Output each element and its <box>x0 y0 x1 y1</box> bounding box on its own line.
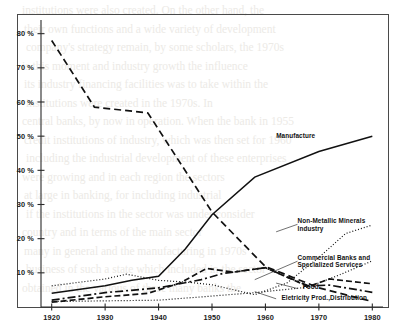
bleed-line: were growing and in each region the sect… <box>22 171 225 184</box>
series-label: Manufacture <box>276 132 315 139</box>
x-axis-ticks: 1920193019401950196019701980 <box>43 304 380 323</box>
y-tick-label: 40 % <box>17 166 35 175</box>
y-tick-label: 30 % <box>17 200 35 209</box>
leader-electricity <box>255 292 276 299</box>
bleed-line: if the institutions in the sector was un… <box>26 208 255 220</box>
x-tick-label: 1950 <box>204 313 221 322</box>
y-tick-label: 50 % <box>17 132 35 141</box>
bleed-line: credit institutions of industry, which w… <box>24 134 292 147</box>
bleed-line: is this moment and industry growth the i… <box>22 60 248 73</box>
y-tick-label: 70 % <box>17 63 35 72</box>
bleed-line: including the industrial development of … <box>26 152 287 165</box>
bleed-line: many in general and the manufacturing in… <box>24 245 247 258</box>
chart-svg: institutions were also created. On the o… <box>0 0 400 324</box>
background-bleed-text: institutions were also created. On the o… <box>22 4 294 295</box>
leader-food <box>276 283 297 288</box>
y-tick-label: 20 % <box>17 234 35 243</box>
x-tick-label: 1930 <box>97 313 114 322</box>
x-tick-label: 1940 <box>150 313 167 322</box>
x-tick-label: 1960 <box>257 313 274 322</box>
x-tick-label: 1970 <box>310 313 327 322</box>
bleed-line: institutions were also created. On the o… <box>22 4 264 17</box>
bleed-line: central banks, by now in operation. When… <box>22 115 294 128</box>
series-label: Food <box>303 283 319 290</box>
series-label: Commercial Banks and <box>298 254 371 261</box>
bleed-line: their own functions and a wide variety o… <box>24 23 276 36</box>
y-tick-label: 10 % <box>17 268 35 277</box>
x-tick-label: 1980 <box>364 313 381 322</box>
x-tick-label: 1920 <box>43 313 60 322</box>
bleed-line: at large in banking, for including indus… <box>24 189 221 202</box>
series-label: Eletricity Prod.,Distribution <box>281 294 367 302</box>
series-label: Specialized Services <box>298 261 363 269</box>
y-tick-label: 80 % <box>17 29 35 38</box>
bleed-line: company's strategy remain, by some schol… <box>26 41 284 54</box>
series-label: Industry <box>298 225 324 233</box>
series-label: Non-Metallic Minerals <box>298 217 366 224</box>
y-tick-label: 60 % <box>17 98 35 107</box>
bleed-line: country and in terms of the main sector <box>22 226 203 239</box>
bleed-line: institutions were created in the 1970s. … <box>26 97 213 109</box>
chart-figure: institutions were also created. On the o… <box>0 0 400 324</box>
bleed-line: its industry financing facilities was to… <box>24 78 268 91</box>
leader-non-metallic <box>276 224 297 232</box>
